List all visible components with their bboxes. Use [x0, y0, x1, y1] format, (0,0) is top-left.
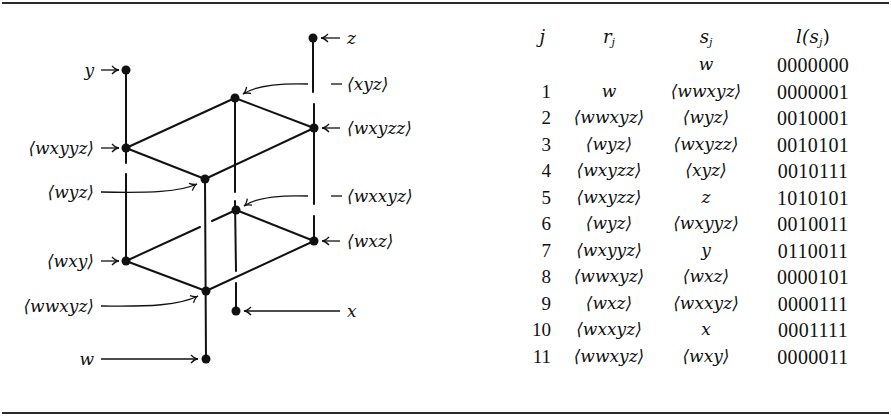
- label-wxz: ⟨wxz⟩: [347, 231, 393, 251]
- cell-j: 11: [511, 346, 551, 368]
- node-wxy: [122, 257, 131, 266]
- label-y: y: [83, 60, 94, 80]
- header-s-sub: j: [709, 36, 712, 49]
- node-x: [232, 307, 241, 316]
- cell-l: 0000011: [757, 346, 869, 369]
- label-wyz: ⟨wyz⟩: [48, 182, 94, 202]
- cell-l: 0000000: [757, 54, 869, 77]
- cell-r: ⟨wxyzz⟩: [553, 160, 665, 180]
- cell-r: ⟨wyz⟩: [553, 213, 665, 233]
- cell-s: z: [655, 187, 757, 207]
- table-row: 11 ⟨wwxyz⟩ ⟨wxy⟩ 0000011: [505, 346, 885, 372]
- cell-j: 3: [511, 134, 551, 156]
- table-row: 3 ⟨wyz⟩ ⟨wxyzz⟩ 0010101: [505, 134, 885, 160]
- table-row: 1 w ⟨wwxyz⟩ 0000001: [505, 81, 885, 107]
- cell-l: 0000111: [757, 293, 869, 316]
- cell-j: 4: [511, 160, 551, 182]
- cell-s: ⟨wxyyz⟩: [655, 213, 757, 233]
- table-row: 6 ⟨wyz⟩ ⟨wxyyz⟩ 0010011: [505, 213, 885, 239]
- cell-r: ⟨wxyzz⟩: [553, 187, 665, 207]
- header-s: sj: [655, 26, 757, 49]
- header-r-sub: j: [612, 36, 615, 49]
- table-row: 4 ⟨wxyzz⟩ ⟨xyz⟩ 0010111: [505, 160, 885, 186]
- cell-r: w: [553, 81, 665, 101]
- node-wxyzz: [310, 124, 319, 133]
- cell-s: ⟨wyz⟩: [655, 107, 757, 127]
- cell-j: 10: [511, 319, 551, 341]
- cell-r: ⟨wyz⟩: [553, 134, 665, 154]
- table-row: 7 ⟨wxyyz⟩ y 0110011: [505, 240, 885, 266]
- cell-j: 5: [511, 187, 551, 209]
- cell-j: 2: [511, 107, 551, 129]
- node-y: [122, 66, 131, 75]
- table-row: 8 ⟨wwxyz⟩ ⟨wxz⟩ 0000101: [505, 266, 885, 292]
- lattice-diagram: y z ⟨xyz⟩ ⟨wxyzz⟩ ⟨wxyyz⟩ ⟨wyz⟩ ⟨wxxyz⟩ …: [0, 0, 500, 410]
- table-header: j rj sj l(sj): [505, 26, 885, 52]
- cell-r: ⟨wxyyz⟩: [553, 240, 665, 260]
- cell-r: ⟨wxxyz⟩: [553, 319, 665, 339]
- cell-r: ⟨wwxyz⟩: [553, 346, 665, 366]
- table-row: w 0000000: [505, 54, 885, 80]
- header-l-close: ): [823, 26, 830, 47]
- node-wwxyz: [202, 287, 211, 296]
- header-r: rj: [553, 26, 665, 49]
- label-wwxyz: ⟨wwxyz⟩: [23, 296, 94, 316]
- label-wxyyz: ⟨wxyyz⟩: [28, 138, 94, 158]
- node-z: [309, 34, 318, 43]
- header-l: l(sj): [757, 26, 869, 49]
- cell-r: ⟨wwxyz⟩: [553, 107, 665, 127]
- table-row: 10 ⟨wxxyz⟩ x 0001111: [505, 319, 885, 345]
- cell-l: 0000101: [757, 266, 869, 289]
- label-x: x: [347, 301, 357, 321]
- header-s-base: s: [700, 26, 709, 47]
- cell-s: y: [655, 240, 757, 260]
- cell-j: 8: [511, 266, 551, 288]
- cell-s: ⟨wxxyz⟩: [655, 293, 757, 313]
- cell-s: ⟨wwxyz⟩: [655, 81, 757, 101]
- node-xyz: [231, 94, 240, 103]
- cell-r: ⟨wwxyz⟩: [553, 266, 665, 286]
- cell-s: x: [655, 319, 757, 339]
- label-wxy: ⟨wxy⟩: [47, 251, 94, 271]
- header-j: j: [511, 26, 551, 47]
- cell-j: 7: [511, 240, 551, 262]
- arrow-wwxyz: [101, 296, 198, 306]
- cell-l: 0001111: [757, 319, 869, 342]
- table-row: 2 ⟨wwxyz⟩ ⟨wyz⟩ 0010001: [505, 107, 885, 133]
- cell-s: w: [655, 54, 757, 74]
- cell-l: 0000001: [757, 81, 869, 104]
- label-z: z: [346, 28, 357, 48]
- cell-l: 0010101: [757, 134, 869, 157]
- cell-l: 0110011: [757, 240, 869, 263]
- label-arrows: [101, 38, 342, 359]
- cell-r: ⟨wxz⟩: [553, 293, 665, 313]
- node-wyz: [201, 175, 210, 184]
- arrow-wyz: [101, 184, 197, 192]
- table-row: 5 ⟨wxyzz⟩ z 1010101: [505, 187, 885, 213]
- node-w: [202, 355, 211, 364]
- cell-l: 1010101: [757, 187, 869, 210]
- node-labels: y z ⟨xyz⟩ ⟨wxyzz⟩ ⟨wxyyz⟩ ⟨wyz⟩ ⟨wxxyz⟩ …: [23, 28, 412, 369]
- cell-s: ⟨wxy⟩: [655, 346, 757, 366]
- cell-s: ⟨xyz⟩: [655, 160, 757, 180]
- header-l-base: l(s: [796, 26, 819, 47]
- lattice-nodes: [122, 34, 319, 364]
- cell-j: 6: [511, 213, 551, 235]
- cell-j: 9: [511, 293, 551, 315]
- cell-l: 0010001: [757, 107, 869, 130]
- cell-l: 0010111: [757, 160, 869, 183]
- table-row: 9 ⟨wxz⟩ ⟨wxxyz⟩ 0000111: [505, 293, 885, 319]
- node-wxyyz: [122, 144, 131, 153]
- header-r-base: r: [603, 26, 612, 47]
- cell-s: ⟨wxz⟩: [655, 266, 757, 286]
- label-wxyzz: ⟨wxyzz⟩: [347, 118, 412, 138]
- label-w: w: [79, 349, 94, 369]
- bottom-rule: [2, 412, 889, 414]
- label-wxxyz: ⟨wxxyz⟩: [347, 186, 413, 206]
- cell-s: ⟨wxyzz⟩: [655, 134, 757, 154]
- arrow-wxxyz: [244, 196, 308, 206]
- cell-l: 0010011: [757, 213, 869, 236]
- label-xyz: ⟨xyz⟩: [347, 74, 388, 94]
- arrow-xyz: [243, 84, 308, 94]
- cell-j: 1: [511, 81, 551, 103]
